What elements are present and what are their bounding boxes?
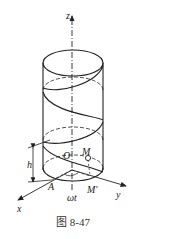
z-axis-label: z — [65, 10, 70, 21]
x-axis-label: x — [16, 203, 22, 214]
x-axis — [18, 170, 72, 200]
helix-cylinder-diagram: h z x y O M M' A ωt 图 8-47 — [0, 0, 171, 239]
cylinder — [43, 50, 103, 181]
top-ellipse — [43, 50, 103, 76]
origin-label: O — [63, 150, 70, 161]
y-axis — [72, 170, 126, 186]
helix-curve — [43, 66, 103, 172]
bottom-ellipse-back — [43, 155, 103, 168]
point-m-prime-label: M' — [86, 184, 98, 195]
point-m-label: M — [81, 146, 91, 157]
point-a-label: A — [47, 181, 55, 192]
angle-construct — [52, 160, 90, 180]
angle-label: ωt — [67, 192, 77, 203]
figure-caption: 图 8-47 — [56, 216, 90, 228]
y-axis-label: y — [115, 189, 121, 200]
height-label: h — [27, 159, 32, 170]
